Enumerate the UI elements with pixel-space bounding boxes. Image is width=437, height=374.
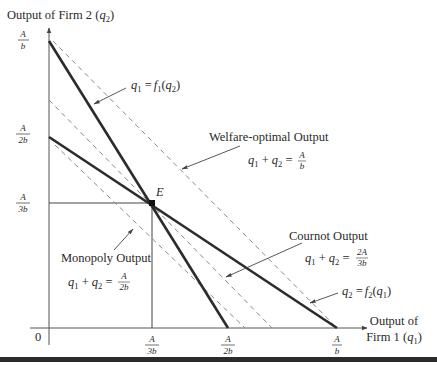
welfare-output-title: Welfare-optimal Output [209,130,329,144]
f2-leader-arrow [310,293,338,303]
svg-text:2A: 2A [357,247,368,257]
welfare-output-equation: q1 + q2 = [248,153,293,169]
svg-text:A: A [19,192,26,202]
origin-label: 0 [35,330,41,344]
cournot-diagram: Output of Firm 2 (q2) E A b A 2b A 3b 0 … [0,0,437,374]
welfare-output-fraction: A b [298,150,306,171]
cournot-leader-arrow [226,243,302,277]
equilibrium-point [149,200,155,206]
x-tick-a-over-b: A b [332,334,342,356]
monopoly-leader-arrow [114,229,133,250]
monopoly-output-equation: q1 + q2 = [68,275,113,291]
x-axis-title-line1: Output of [370,314,419,328]
cournot-output-fraction: 2A 3b [356,247,368,268]
svg-text:A: A [298,150,305,160]
y-tick-a-over-b: A b [18,29,29,51]
f1-leader-arrow [94,88,126,104]
svg-text:A: A [224,334,231,344]
svg-text:3b: 3b [357,258,368,268]
x-tick-a-over-2b: A 2b [221,334,235,356]
x-axis-title-line2: Firm 1 (q1) [366,330,422,346]
svg-text:A: A [148,334,155,344]
svg-text:b: b [300,161,305,171]
x-tick-a-over-3b: A 3b [145,334,159,356]
svg-text:2b: 2b [224,346,234,356]
svg-text:3b: 3b [147,346,158,356]
equilibrium-label: E [155,185,164,199]
y-axis-title: Output of Firm 2 (q2) [7,8,114,24]
reaction-curve-f1-label: q1 =f1(q2) [131,78,180,94]
svg-text:3b: 3b [18,204,29,214]
cournot-output-equation: q1 + q2 = [305,251,350,267]
svg-text:A: A [333,334,340,344]
svg-text:b: b [21,41,26,51]
svg-text:2b: 2b [19,135,29,145]
monopoly-output-title: Monopoly Output [61,251,151,265]
welfare-leader-arrow [182,146,240,169]
y-tick-a-over-3b: A 3b [16,192,30,214]
svg-text:b: b [335,346,340,356]
cournot-output-title: Cournot Output [289,229,368,243]
monopoly-output-fraction: A 2b [118,271,130,292]
svg-text:A: A [120,271,127,281]
svg-text:A: A [19,29,26,39]
svg-text:2b: 2b [120,282,130,292]
iso-output-line-monopoly [55,145,245,328]
reaction-curve-f2-label: q2 =f2(q1) [342,284,391,300]
y-tick-a-over-2b: A 2b [16,123,30,145]
bottom-rule [0,357,437,362]
svg-text:A: A [19,123,26,133]
